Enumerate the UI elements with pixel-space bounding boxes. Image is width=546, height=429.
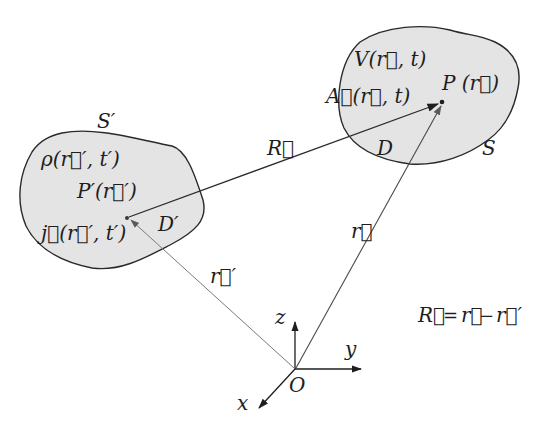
current-density-label: j⃗(r⃗′, t′)	[37, 221, 126, 245]
equation-equals: =	[443, 305, 458, 326]
vector-r-label: r⃗	[351, 219, 373, 243]
equation-r-prime: r⃗′	[496, 303, 523, 327]
charge-density-label: ρ(r⃗′, t′)	[40, 147, 120, 171]
equation-lhs: R⃗	[417, 303, 445, 327]
domain-D-label: D	[376, 136, 393, 160]
point-P-label: P (r⃗)	[441, 71, 499, 95]
diagram-canvas: S′ ρ(r⃗′, t′) P′(r⃗′) j⃗(r⃗′, t′) D′ V(r…	[0, 0, 546, 429]
y-axis-label: y	[344, 337, 357, 361]
x-axis-label: x	[237, 391, 248, 415]
scalar-potential-label: V(r⃗, t)	[354, 47, 426, 71]
surface-S-prime-label: S′	[97, 109, 116, 133]
vector-R-label: R⃗	[266, 136, 294, 160]
z-axis-label: z	[274, 305, 286, 329]
vector-potential-label: A⃗(r⃗, t)	[324, 84, 410, 108]
relation-equation: R⃗ = r⃗ − r⃗′	[417, 303, 523, 327]
domain-D-prime-label: D′	[157, 212, 179, 236]
origin-label: O	[289, 373, 305, 397]
point-P-prime-dot	[125, 216, 129, 220]
surface-S-label: S	[482, 136, 496, 160]
point-P-dot	[440, 100, 445, 105]
vector-r-prime-arrow	[131, 220, 294, 368]
point-P-prime-label: P′(r⃗′)	[76, 179, 137, 203]
vector-r-prime-label: r⃗′	[210, 264, 237, 288]
equation-minus: −	[479, 305, 494, 326]
